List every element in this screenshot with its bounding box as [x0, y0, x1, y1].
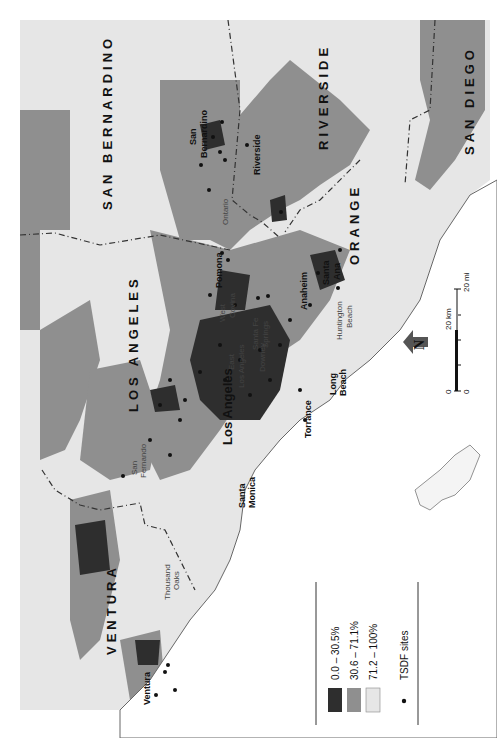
- city-label-huntington-2: Beach: [345, 305, 354, 328]
- city-label-san-bernardino-1: San: [188, 128, 198, 145]
- city-label-torrance: Torrance: [303, 400, 313, 438]
- city-label-downey: Downey: [258, 343, 267, 372]
- choropleth-map: SAN BERNARDINO RIVERSIDE SAN DIEGO ORANG…: [0, 0, 497, 738]
- county-label-san-bernardino: SAN BERNARDINO: [100, 35, 115, 210]
- city-label-anaheim: Anaheim: [299, 272, 309, 310]
- legend-swatch-high: [366, 688, 380, 712]
- city-label-riverside: Riverside: [252, 134, 262, 175]
- county-label-riverside: RIVERSIDE: [316, 44, 331, 150]
- scale-zero-mi: 0: [462, 389, 471, 394]
- legend-label-mid: 30.6 – 71.1%: [349, 621, 360, 680]
- city-label-west-covina-2: Covina: [228, 293, 237, 318]
- city-label-thousand-oaks-2: Oaks: [172, 571, 181, 590]
- county-label-san-diego: SAN DIEGO: [462, 46, 477, 155]
- legend-label-high: 71.2 – 100%: [368, 624, 379, 680]
- scale-km-label: 20 km: [444, 308, 453, 330]
- city-label-san-fernando-1: San: [130, 461, 139, 475]
- city-label-san-fernando-2: Fernando: [139, 443, 148, 478]
- scale-mi-label: 20 mi: [462, 272, 471, 292]
- county-label-ventura: VENTURA: [104, 564, 119, 655]
- city-label-san-bernardino-2: Bernardino: [199, 109, 209, 158]
- scale-zero-km: 0: [444, 389, 453, 394]
- city-label-santa-ana-1: Santa: [321, 259, 331, 285]
- county-label-orange: ORANGE: [347, 184, 362, 265]
- city-label-west-covina-1: West: [218, 303, 227, 322]
- legend-swatch-low: [328, 688, 342, 712]
- legend-label-low: 0.0 – 30.5%: [330, 627, 341, 680]
- city-label-pomona: Pomona: [214, 252, 224, 288]
- city-label-thousand-oaks-1: Thousand: [163, 564, 172, 600]
- city-label-santa-monica-1: Santa: [237, 482, 247, 508]
- legend-dot-icon: [402, 699, 406, 703]
- city-label-long-beach-1: Long: [328, 373, 338, 395]
- legend-label-tsdf: TSDF sites: [399, 631, 410, 680]
- legend-swatch-mid: [347, 688, 361, 712]
- city-label-east-la-1: East: [227, 353, 236, 370]
- city-label-huntington-1: Huntington: [335, 301, 344, 340]
- north-label: N: [412, 340, 427, 350]
- city-label-long-beach-2: Beach: [338, 369, 348, 396]
- city-label-santa-monica-2: Monica: [247, 476, 257, 508]
- county-label-los-angeles: LOS ANGELES: [126, 275, 141, 412]
- city-label-ontario: Ontario: [221, 198, 230, 225]
- city-label-ventura: Ventura: [142, 671, 152, 705]
- city-label-los-angeles: Los Angeles: [220, 368, 235, 445]
- city-label-east-la-2: Los Angeles: [237, 344, 246, 388]
- city-label-santa-ana-2: Ana: [332, 262, 342, 280]
